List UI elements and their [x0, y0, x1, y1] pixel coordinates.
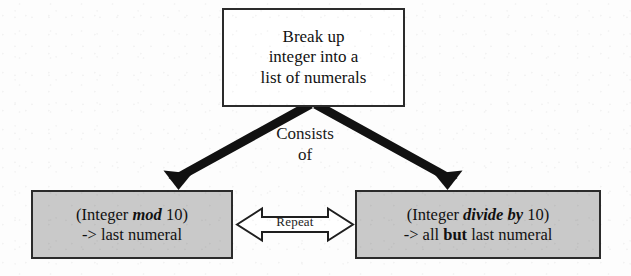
right-box-line-2-emphasis: but: [443, 225, 467, 244]
right-box-line-2-suffix: last numeral: [467, 225, 552, 244]
diagram-canvas: Break up integer into a list of numerals…: [0, 0, 631, 276]
left-box-line-1-suffix: 10): [162, 205, 188, 224]
right-box-line-1: (Integer divide by 10): [407, 205, 549, 224]
top-box-line-3: list of numerals: [261, 68, 367, 88]
consists-of-line-2: of: [245, 145, 365, 166]
repeat-arrow-label: Repeat: [253, 214, 337, 230]
break-up-integer-box: Break up integer into a list of numerals: [222, 8, 405, 107]
left-box-line-2: -> last numeral: [82, 225, 182, 244]
left-box-line-1-emphasis: mod: [132, 205, 161, 224]
integer-mod-10-box: (Integer mod 10) -> last numeral: [31, 190, 233, 259]
right-box-line-2-prefix: -> all: [404, 225, 444, 244]
top-box-line-2: integer into a: [269, 47, 359, 67]
right-box-line-1-suffix: 10): [523, 205, 549, 224]
integer-divide-by-10-box: (Integer divide by 10) -> all but last n…: [355, 190, 601, 259]
right-box-line-1-emphasis: divide by: [463, 205, 523, 224]
left-box-line-1: (Integer mod 10): [76, 205, 188, 224]
left-box-line-1-prefix: (Integer: [76, 205, 132, 224]
consists-of-label: Consists of: [245, 124, 365, 165]
right-box-line-1-prefix: (Integer: [407, 205, 463, 224]
right-box-line-2: -> all but last numeral: [404, 225, 553, 244]
consists-of-line-1: Consists: [245, 124, 365, 145]
top-box-line-1: Break up: [283, 27, 345, 47]
